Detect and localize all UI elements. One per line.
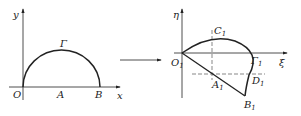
conformal-map-diagram: y x O A B Γ η ξ O1 C1 A1 B1 D1 Γ1: [0, 0, 301, 116]
eta-axis-label: η: [173, 9, 179, 20]
y-axis-label: y: [12, 9, 19, 20]
left-figure: y x O A B Γ: [9, 9, 123, 101]
point-d1-label: D1: [251, 75, 265, 88]
curve-gamma1-label: Γ1: [250, 55, 262, 68]
curve-gamma-label: Γ: [59, 38, 68, 49]
point-a-label: A: [56, 89, 64, 100]
xi-axis-label: ξ: [279, 57, 285, 68]
semicircle-gamma: [23, 50, 100, 87]
x-axis-label: x: [117, 90, 123, 101]
point-b-label: B: [94, 89, 102, 100]
point-c1-label: C1: [214, 25, 226, 38]
right-figure: η ξ O1 C1 A1 B1 D1 Γ1: [171, 9, 287, 112]
origin-label: O: [13, 89, 21, 100]
point-b1-label: B1: [243, 99, 256, 112]
